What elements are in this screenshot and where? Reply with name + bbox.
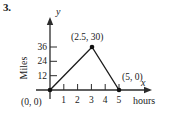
annotation-origin: (0, 0) (21, 97, 42, 108)
x-axis-name-label: hours (133, 95, 155, 106)
y-axis-name-label: Miles (18, 57, 29, 80)
plot-line (50, 47, 119, 90)
x-tick-label-4: 4 (103, 95, 108, 105)
x-tick-label-2: 2 (75, 95, 80, 105)
x-tick-label-5: 5 (117, 95, 122, 105)
y-axis-arrow-icon (47, 17, 53, 25)
y-tick-label-12: 12 (38, 71, 48, 81)
annotation-peak: (2.5, 30) (71, 32, 103, 43)
data-point-origin (48, 88, 53, 93)
data-point-peak (90, 45, 95, 50)
y-tick-label-24: 24 (38, 56, 48, 66)
x-tick-label-1: 1 (61, 95, 66, 105)
figure-container: 3. 36 24 12 1 2 3 4 5 (0, 0, 175, 119)
annotation-endpoint: (5, 0) (122, 72, 143, 83)
data-point-end (117, 88, 122, 93)
x-tick-label-3: 3 (89, 95, 94, 105)
y-tick-label-36: 36 (38, 42, 48, 52)
graph-figure: 36 24 12 1 2 3 4 5 y x Miles hours (0, 0… (0, 0, 175, 119)
y-axis-variable-label: y (55, 6, 61, 17)
